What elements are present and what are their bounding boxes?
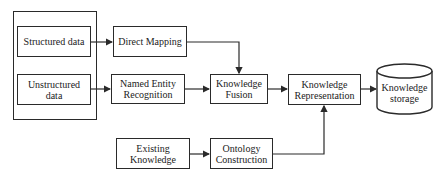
node-label-line2: storage: [390, 93, 419, 104]
edge-direct-mapping-to-fusion: [187, 42, 239, 73]
node-knowledge-representation: Knowledge Representation: [288, 74, 361, 105]
node-existing-knowledge: Existing Knowledge: [116, 138, 190, 169]
node-label-line2: data: [46, 90, 63, 101]
node-label: Structured data: [24, 36, 85, 47]
node-unstructured-data: Unstructured data: [17, 74, 91, 105]
node-label-line1: Named Entity: [120, 78, 176, 89]
node-label-line2: Representation: [295, 90, 355, 101]
node-label-line1: Unstructured: [28, 79, 80, 90]
node-direct-mapping: Direct Mapping: [113, 26, 187, 57]
node-structured-data: Structured data: [17, 26, 91, 57]
node-knowledge-fusion: Knowledge Fusion: [210, 74, 268, 104]
node-named-entity-recognition: Named Entity Recognition: [111, 74, 185, 104]
node-label-line1: Knowledge: [216, 78, 262, 89]
node-knowledge-storage: Knowledge storage: [377, 80, 432, 106]
node-label-line1: Ontology: [223, 143, 261, 154]
node-label-line2: Fusion: [225, 89, 252, 100]
node-label-line1: Knowledge: [301, 79, 347, 90]
node-label-line1: Knowledge: [381, 82, 427, 93]
node-label-line2: Recognition: [124, 89, 173, 100]
node-ontology-construction: Ontology Construction: [210, 138, 273, 169]
node-label-line1: Existing: [136, 143, 169, 154]
node-label-line2: Knowledge: [130, 154, 176, 165]
node-label: Direct Mapping: [118, 36, 182, 47]
node-label-line2: Construction: [216, 154, 268, 165]
edge-ontology-to-representation: [273, 106, 324, 154]
